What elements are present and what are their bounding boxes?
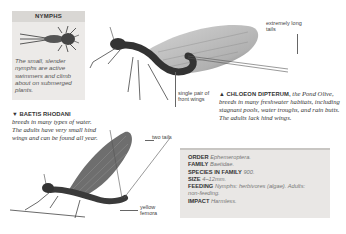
label-yellow-femora: yellow femora bbox=[140, 204, 170, 217]
leader-line bbox=[175, 72, 176, 107]
info-row-impact: IMPACT Harmless. bbox=[188, 198, 330, 205]
info-row-species: SPECIES IN FAMILY 900. bbox=[188, 169, 330, 176]
leader-line bbox=[145, 140, 154, 141]
caption-marker: ▼ bbox=[12, 111, 18, 117]
info-row-feeding: FEEDING Nymphs: herbivores (algae). Adul… bbox=[188, 183, 318, 198]
leader-line bbox=[120, 210, 138, 211]
leader-line bbox=[297, 34, 298, 54]
baetis-species-name: BAETIS RHODANI bbox=[20, 111, 71, 117]
info-row-family: FAMILY Baetidae. bbox=[188, 161, 330, 168]
chloeon-mayfly-image bbox=[88, 12, 288, 102]
info-row-size: SIZE 4–12mm. bbox=[188, 176, 330, 183]
chloeon-species-name: CHLOEON DIPTERUM, bbox=[227, 91, 291, 97]
label-single-pair-front-wings: single pair of front wings bbox=[178, 90, 214, 103]
label-two-tails: two tails bbox=[152, 134, 174, 140]
nymphs-description: The small, slender nymphs are active swi… bbox=[15, 57, 85, 93]
species-info-box: ORDER Ephemeroptera. FAMILY Baetidae. SP… bbox=[180, 148, 330, 218]
info-row-order: ORDER Ephemeroptera. bbox=[188, 154, 330, 161]
caption-marker: ▲ bbox=[219, 91, 225, 97]
nymphs-title: NYMPHS bbox=[12, 11, 85, 22]
nymph-illustration-icon bbox=[18, 24, 80, 54]
nymphs-box: NYMPHS The small, slender nymphs are act… bbox=[12, 11, 85, 100]
chloeon-caption: ▲ CHLOEON DIPTERUM, the Pond Olive, bree… bbox=[219, 90, 343, 122]
label-extremely-long-tails: extremely long tails bbox=[266, 20, 306, 33]
